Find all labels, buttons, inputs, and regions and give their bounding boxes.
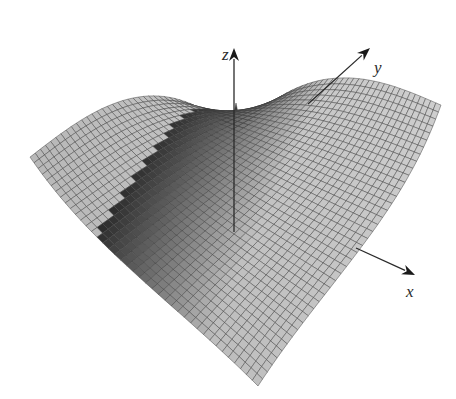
surface-plot-3d: z y x	[0, 0, 456, 399]
x-axis-line	[356, 248, 405, 270]
x-axis: x	[356, 248, 415, 301]
z-axis-label: z	[221, 45, 229, 64]
x-axis-label: x	[405, 282, 414, 301]
y-axis-label: y	[372, 58, 382, 77]
surface-mesh	[30, 78, 441, 386]
